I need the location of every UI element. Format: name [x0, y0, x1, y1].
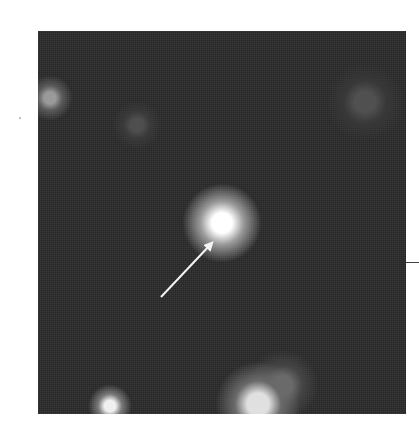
bottom-left-bright-source	[88, 384, 131, 414]
stray-dot	[19, 117, 21, 119]
figure-canvas	[0, 0, 419, 445]
upper-middle-faint-source	[112, 100, 162, 150]
central-bright-source	[182, 183, 261, 262]
upper-left-faint-source	[38, 75, 73, 122]
right-tick-mark	[406, 262, 419, 263]
star-field-image	[38, 31, 406, 414]
upper-right-faint-source	[325, 62, 404, 141]
bottom-right-bright-source	[215, 361, 301, 414]
bottom-right-diffuse-source	[247, 349, 319, 414]
pointer-arrow-icon	[38, 31, 406, 414]
